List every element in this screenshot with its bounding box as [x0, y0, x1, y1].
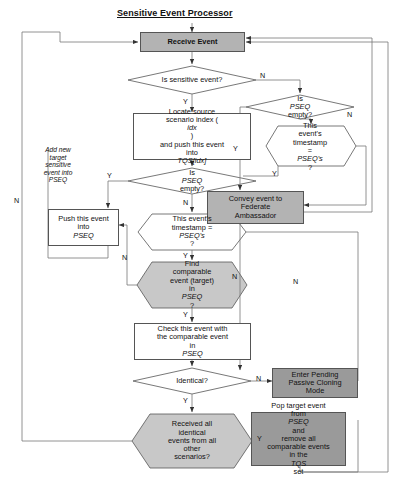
node-timestamp-left[interactable]: This event'stimestamp =PSEQ's? [148, 216, 236, 248]
node-enter-pending[interactable]: Enter PendingPassive CloningMode [272, 368, 358, 398]
node-identical[interactable]: Identical? [140, 373, 244, 389]
node-is-pseq-empty-right-label: Is PSEQ empty? [288, 95, 312, 120]
edge-label-sensitive-no: N [260, 71, 265, 80]
edge-label-ts-right-no: N [232, 272, 237, 281]
node-receive-event[interactable]: Receive Event [140, 32, 245, 52]
edge-label-sensitive-yes: Y [183, 97, 188, 106]
node-push-this-event[interactable]: Push this eventinto PSEQ [48, 209, 119, 246]
edge-label-pseq-left-yes: Y [107, 171, 112, 180]
edge-label-pseq-left-no: N [183, 198, 188, 207]
node-is-pseq-empty-right[interactable]: Is PSEQ empty? [248, 99, 352, 115]
edge-label-find-no: N [122, 253, 127, 262]
edge-label-received-yes: Y [257, 434, 262, 443]
node-receive-event-label: Receive Event [167, 38, 217, 46]
node-received-all-identical-label: Received allidenticalevents from allothe… [168, 420, 216, 461]
node-timestamp-right-label: Thisevent'stimestamp= PSEQ's? [293, 122, 327, 172]
edge-label-identical-yes: Y [183, 396, 188, 405]
node-find-comparable-label: Findcomparableevent (target)in PSEQ? [170, 260, 214, 310]
node-identical-label: Identical? [176, 377, 208, 385]
edge-label-received-no: N [14, 196, 19, 205]
edge-label-ts-left-no: N [293, 277, 298, 286]
node-enter-pending-label: Enter PendingPassive CloningMode [289, 371, 342, 396]
node-pop-target-event-label: Pop target eventfrom PSEQ andremove allc… [267, 402, 329, 477]
edge-label-find-yes: Y [183, 310, 188, 319]
node-check-this-event-label: Check this event withthe comparable even… [157, 325, 228, 358]
node-pop-target-event[interactable]: Pop target eventfrom PSEQ andremove allc… [251, 412, 346, 466]
node-is-sensitive-event-label: Is sensitive event? [162, 76, 223, 84]
edge-label-identical-no: N [256, 374, 261, 383]
edge-label-pseq-right-no: N [347, 110, 352, 119]
node-check-this-event[interactable]: Check this event withthe comparable even… [134, 323, 251, 360]
node-convey-event-label: Convey event toFederateAmbassador [229, 195, 282, 220]
flowchart-canvas: Sensitive Event Processor Receive Event … [0, 0, 405, 478]
node-timestamp-left-label: This event'stimestamp =PSEQ's? [172, 215, 212, 248]
node-is-pseq-empty-left[interactable]: Is PSEQ empty? [132, 172, 252, 190]
node-received-all-identical[interactable]: Received allidenticalevents from allothe… [146, 415, 238, 467]
node-locate-source-label: Locate sourcescenario index (idx)and pus… [160, 108, 224, 166]
page-title: Sensitive Event Processor [117, 8, 233, 18]
edge-label-pseq-right-yes: Y [233, 144, 238, 153]
node-is-sensitive-event[interactable]: Is sensitive event? [132, 70, 252, 90]
node-is-pseq-empty-left-label: Is PSEQ empty? [180, 169, 204, 194]
node-find-comparable[interactable]: Findcomparableevent (target)in PSEQ? [148, 264, 236, 306]
edge-label-ts-left-yes: Y [183, 251, 188, 260]
edge-label-ts-right-yes: Y [272, 169, 277, 178]
annotation-add-new-target: Add newtargetsensitiveevent intoPSEQ [27, 146, 89, 184]
node-timestamp-right[interactable]: Thisevent'stimestamp= PSEQ's? [274, 128, 346, 166]
node-push-this-event-label: Push this eventinto PSEQ [58, 215, 109, 240]
